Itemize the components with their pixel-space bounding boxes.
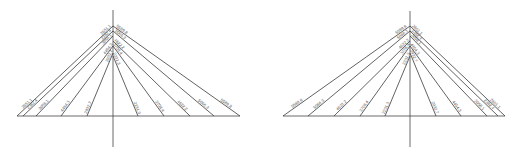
fan-diagrams-canvas: 2651.12651.12382.42382.43058.13058.14454… xyxy=(0,0,513,155)
line-length-label: 4622.2 xyxy=(335,98,348,111)
fan-line xyxy=(113,41,190,116)
line-length-label: 2932.7 xyxy=(430,101,440,115)
left-fan-diagram: 2651.12651.12382.42382.43058.13058.14454… xyxy=(17,10,240,147)
line-length-label: 5066.3 xyxy=(197,98,211,111)
line-length-label: 2231.3 xyxy=(381,100,391,114)
right-fan-diagram: 5589.85589.85066.35066.34622.24622.23708… xyxy=(283,11,505,147)
line-length-label: 2231.3 xyxy=(133,101,143,115)
line-length-label: 5066.3 xyxy=(312,97,326,109)
line-length-label: 4622.2 xyxy=(176,99,189,112)
line-length-label: 2932.7 xyxy=(83,100,93,114)
line-length-label: 3058.1 xyxy=(37,98,50,111)
